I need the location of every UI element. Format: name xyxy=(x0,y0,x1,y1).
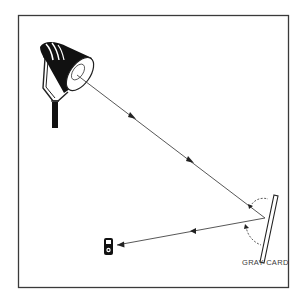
arrow-icon xyxy=(244,224,249,229)
reflected-ray xyxy=(117,218,265,248)
gray-card-label: GRAY CARD xyxy=(242,258,289,267)
angle-of-incidence-arc xyxy=(250,198,268,207)
incident-ray xyxy=(77,75,265,218)
arrow-icon xyxy=(117,242,125,248)
gray-card xyxy=(260,195,278,263)
light-meter-icon xyxy=(104,238,113,255)
arrow-icon xyxy=(190,228,196,234)
arrow-icon xyxy=(186,156,194,163)
angle-of-reflection-arc xyxy=(246,226,261,245)
arrow-icon xyxy=(128,112,136,119)
